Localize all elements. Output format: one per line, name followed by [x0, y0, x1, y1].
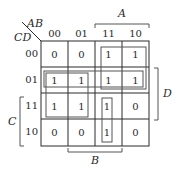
row-header: 10: [22, 126, 38, 138]
col-header: 00: [41, 28, 68, 40]
kmap-cell: 1: [41, 93, 68, 119]
kmap-cell: 1: [68, 67, 95, 93]
col-header: 01: [68, 28, 95, 40]
kmap-cell: 1: [95, 67, 122, 93]
kmap-cell: 0: [68, 41, 95, 67]
bracket-d: [154, 68, 158, 120]
kmap-cell: 0: [68, 119, 95, 145]
row-var-label: CD: [14, 32, 31, 44]
kmap-cell: 0: [122, 119, 149, 145]
kmap-cell: 1: [95, 41, 122, 67]
bracket-label-a: A: [118, 8, 126, 20]
bracket-label-d: D: [163, 88, 172, 100]
col-header: 10: [122, 28, 149, 40]
kmap-cell: 1: [122, 67, 149, 93]
row-header: 01: [22, 74, 38, 86]
kmap-cell: 1: [41, 67, 68, 93]
kmap-cell: 1: [122, 41, 149, 67]
kmap-cell: 0: [41, 119, 68, 145]
col-header: 11: [95, 28, 122, 40]
bracket-label-c: C: [8, 116, 16, 128]
kmap-cell: 0: [122, 93, 149, 119]
row-header: 11: [22, 100, 38, 112]
kmap-cell: 1: [95, 119, 119, 145]
row-header: 00: [22, 48, 38, 60]
bracket-b: [68, 148, 122, 152]
bracket-label-b: B: [91, 155, 99, 167]
kmap-cell: 1: [95, 93, 119, 119]
kmap-cell: 0: [41, 41, 68, 67]
kmap-cell: 1: [68, 93, 95, 119]
